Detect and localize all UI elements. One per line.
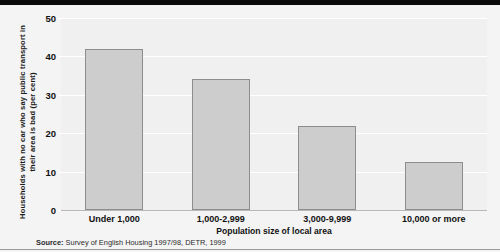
source-note: Source: Survey of English Housing 1997/9… [36, 238, 226, 247]
bar [298, 126, 356, 210]
top-black-band [0, 0, 500, 5]
x-tick-label: 1,000-2,999 [197, 214, 245, 224]
y-tick-label: 50 [30, 13, 56, 24]
chart-figure: Households with no car who say public tr… [0, 0, 500, 252]
bar [405, 162, 463, 210]
source-label: Source: [36, 238, 64, 247]
y-tick-label: 20 [30, 128, 56, 139]
y-tick-label: 0 [30, 205, 56, 216]
y-tick-label: 10 [30, 166, 56, 177]
x-tick-label: 10,000 or more [402, 214, 466, 224]
x-axis-title: Population size of local area [61, 226, 487, 236]
x-axis-line [61, 210, 487, 211]
gridline [61, 18, 487, 19]
y-tick-label: 40 [30, 51, 56, 62]
bar [85, 49, 143, 210]
x-tick-label: 3,000-9,999 [303, 214, 351, 224]
y-tick-label: 30 [30, 89, 56, 100]
plot-area [61, 18, 487, 210]
x-tick-label: Under 1,000 [89, 214, 140, 224]
footer-divider [0, 249, 500, 250]
bar [192, 79, 250, 210]
source-text: Survey of English Housing 1997/98, DETR,… [66, 238, 226, 247]
